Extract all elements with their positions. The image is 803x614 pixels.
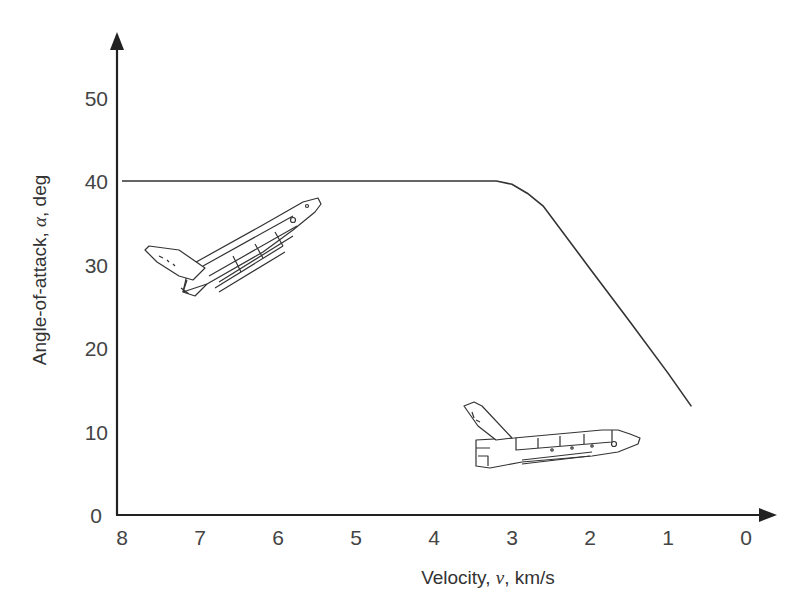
y-tick-label: 20 [85,337,108,360]
x-tick-label: 8 [116,526,128,549]
x-tick-label: 3 [506,526,518,549]
x-tick-label: 6 [272,526,284,549]
y-axis-label: Angle-of-attack, α, deg [29,175,50,366]
y-tick-label: 40 [85,170,108,193]
y-axis-arrow-icon [110,32,124,50]
x-tick-label: 7 [194,526,206,549]
space-shuttle-high-alpha-illustration [145,198,321,296]
y-tick-label: 30 [85,254,108,277]
x-tick-labels: 876543210 [116,526,752,549]
x-tick-label: 4 [428,526,440,549]
x-tick-label: 1 [662,526,674,549]
x-tick-label: 2 [584,526,596,549]
x-tick-label: 0 [740,526,752,549]
angle-of-attack-chart: 01020304050 876543210 Velocity, v, km/s … [0,0,803,614]
x-axis-label: Velocity, v, km/s [421,567,555,588]
space-shuttle-low-alpha-illustration [464,402,640,468]
x-axis-arrow-icon [759,508,777,522]
y-tick-label: 0 [90,504,102,527]
y-tick-label: 50 [85,87,108,110]
y-tick-label: 10 [85,421,108,444]
x-tick-label: 5 [350,526,362,549]
y-tick-labels: 01020304050 [85,87,108,528]
angle-of-attack-curve [122,181,691,406]
